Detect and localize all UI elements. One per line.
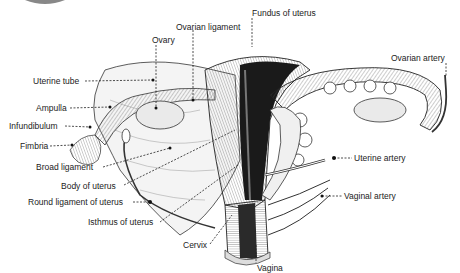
label-uterine-tube: Uterine tube (33, 76, 79, 86)
label-broad-ligament: Broad ligament (36, 162, 93, 172)
label-fimbria: Fimbria (20, 141, 48, 151)
label-cervix: Cervix (183, 240, 207, 250)
label-vagina: Vagina (257, 263, 283, 273)
label-fundus-of-uterus: Fundus of uterus (252, 8, 316, 18)
label-ovary: Ovary (152, 35, 175, 45)
label-vaginal-artery: Vaginal artery (344, 191, 396, 201)
corner-artifact (25, 0, 65, 4)
label-ovarian-artery: Ovarian artery (391, 53, 445, 63)
label-ampulla: Ampulla (36, 103, 67, 113)
label-ovarian-ligament: Ovarian ligament (176, 22, 240, 32)
label-infundibulum: Infundibulum (9, 121, 58, 131)
left-ovary-shape (136, 101, 184, 129)
label-round-ligament-of-uterus: Round ligament of uterus (28, 197, 123, 207)
label-uterine-artery: Uterine artery (354, 153, 406, 163)
right-ovary-shape (354, 98, 406, 122)
label-isthmus-of-uterus: Isthmus of uterus (88, 217, 153, 227)
label-body-of-uterus: Body of uterus (61, 181, 116, 191)
fimbria-shape (70, 135, 101, 165)
